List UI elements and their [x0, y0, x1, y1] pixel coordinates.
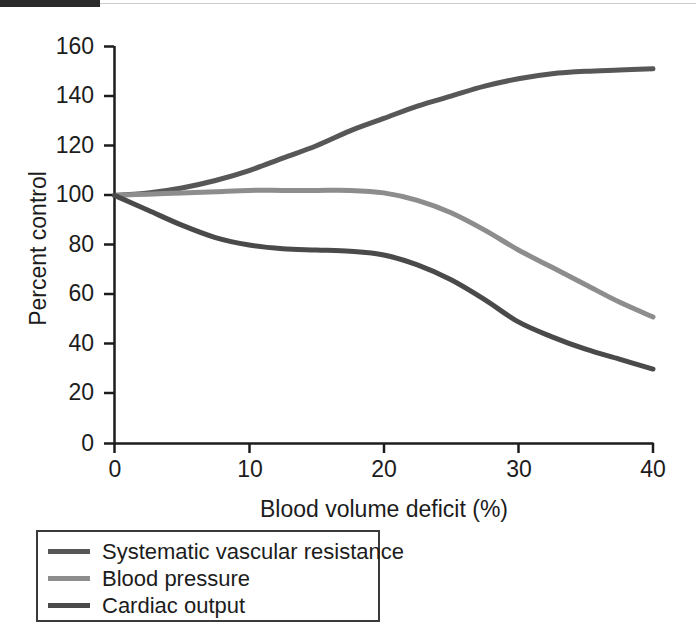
- legend-item-blood-pressure: Blood pressure: [38, 565, 378, 592]
- series-line-cardiac-output: [115, 195, 654, 369]
- y-tick-label-140: 140: [24, 84, 94, 107]
- legend-swatch-icon: [48, 603, 90, 608]
- y-tick-label-20: 20: [24, 381, 94, 404]
- legend-item-cardiac-output: Cardiac output: [38, 592, 378, 619]
- x-tick-label-20: 20: [354, 458, 414, 481]
- legend-label: Systematic vascular resistance: [102, 541, 404, 563]
- chart-figure: 160 140 120 100 80 60 40 20 0 0 10 20 30…: [0, 0, 696, 629]
- legend-item-systematic-vascular-resistance: Systematic vascular resistance: [38, 538, 378, 565]
- legend-swatch-icon: [48, 549, 90, 554]
- y-axis-title: Percent control: [25, 149, 52, 349]
- series-line-systematic-vascular-resistance: [115, 69, 654, 196]
- y-tick-label-160: 160: [24, 35, 94, 58]
- legend-label: Cardiac output: [102, 595, 245, 617]
- legend-label: Blood pressure: [102, 568, 250, 590]
- x-tick-label-30: 30: [489, 458, 549, 481]
- x-tick-label-10: 10: [220, 458, 280, 481]
- x-axis-title: Blood volume deficit (%): [114, 496, 654, 523]
- x-tick-label-40: 40: [623, 458, 683, 481]
- y-tick-label-0: 0: [24, 432, 94, 455]
- x-tick-label-0: 0: [85, 458, 145, 481]
- chart-legend: Systematic vascular resistance Blood pre…: [36, 530, 380, 622]
- y-tick-marks: [104, 47, 114, 444]
- legend-swatch-icon: [48, 576, 90, 581]
